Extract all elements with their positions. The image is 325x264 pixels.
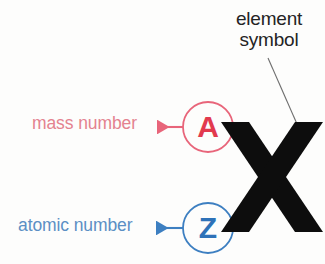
atomic-number-label: atomic number [18,216,132,236]
element-symbol-x [221,122,323,232]
mass-number-label: mass number [32,114,137,134]
atomic-number-glyph: Z [184,213,232,243]
element-symbol-callout-line1: element [236,8,302,29]
element-symbol-callout: element symbol [216,8,322,51]
figure-canvas: element symbol mass number atomic number… [0,0,325,264]
element-symbol-callout-line2: symbol [216,29,322,50]
element-symbol-leader-line [268,58,297,124]
mass-number-glyph: A [184,112,232,142]
